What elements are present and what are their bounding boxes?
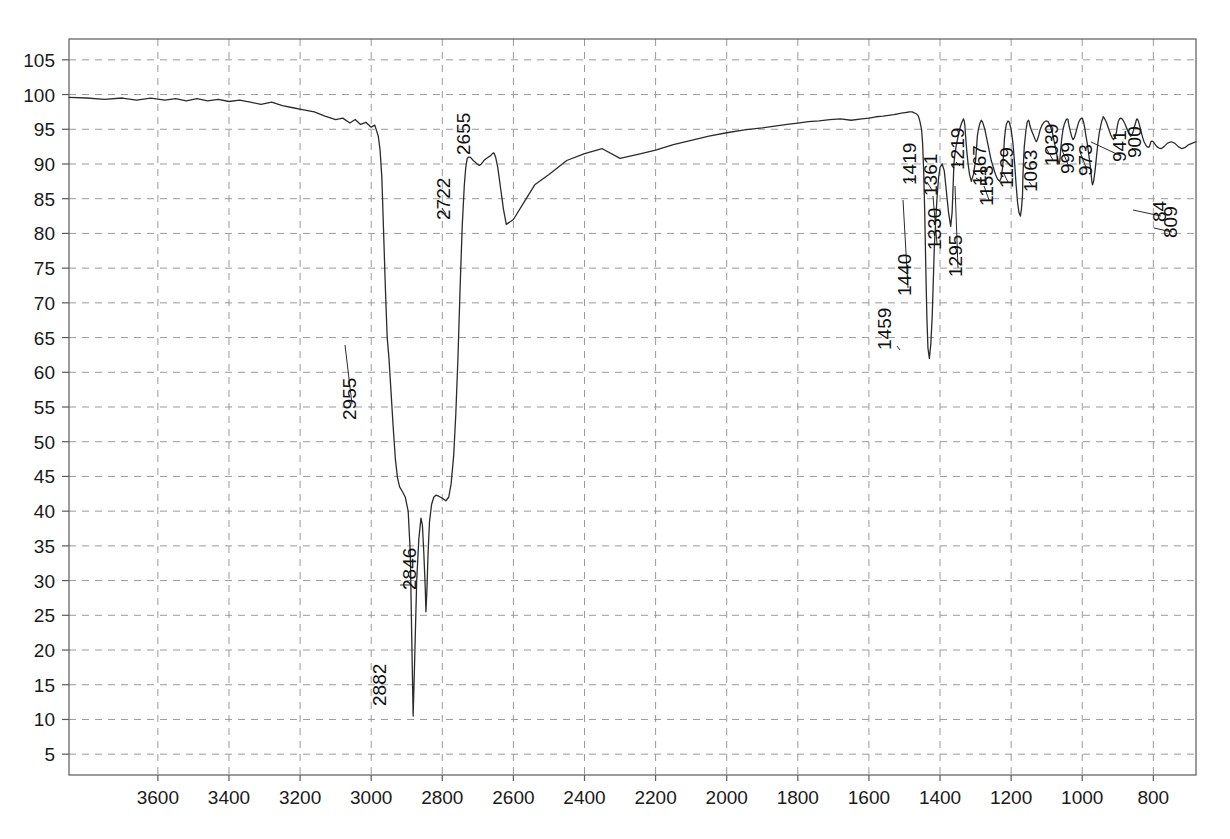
peak-label-1330: 1330 (924, 208, 945, 250)
x-tick-label: 1200 (990, 787, 1032, 808)
peak-label-973: 973 (1075, 144, 1096, 176)
y-tick-label: 100 (23, 85, 55, 106)
ir-spectrum-page: 3600340032003000280026002400220020001800… (0, 0, 1230, 839)
y-tick-label: 25 (34, 605, 55, 626)
peak-label-2955: 2955 (339, 378, 360, 420)
y-tick-label: 95 (34, 119, 55, 140)
y-tick-label: 50 (34, 432, 55, 453)
y-tick-label: 35 (34, 536, 55, 557)
y-tick-label: 60 (34, 362, 55, 383)
peak-label-2655: 2655 (453, 113, 474, 155)
y-tick-label: 10 (34, 709, 55, 730)
peak-label-1419: 1419 (899, 143, 920, 185)
x-axis-tick-labels: 3600340032003000280026002400220020001800… (137, 787, 1169, 808)
y-tick-label: 75 (34, 258, 55, 279)
y-tick-label: 40 (34, 501, 55, 522)
y-tick-label: 20 (34, 640, 55, 661)
peak-label-2722: 2722 (433, 178, 454, 220)
x-tick-label: 800 (1137, 787, 1169, 808)
peak-label-1361: 1361 (920, 154, 941, 196)
x-tick-label: 1800 (777, 787, 819, 808)
y-axis-tick-labels: 5101520253035404550556065707580859095100… (23, 50, 55, 765)
y-tick-label: 105 (23, 50, 55, 71)
y-tick-label: 70 (34, 293, 55, 314)
y-tick-label: 15 (34, 675, 55, 696)
peak-label-2846: 2846 (399, 548, 420, 590)
y-tick-label: 65 (34, 328, 55, 349)
y-tick-label: 30 (34, 571, 55, 592)
peak-label-1129: 1129 (996, 147, 1017, 188)
y-tick-label: 90 (34, 154, 55, 175)
peak-leader-line (897, 346, 900, 350)
x-tick-label: 2000 (706, 787, 748, 808)
spectrum-chart: 3600340032003000280026002400220020001800… (0, 0, 1230, 839)
x-tick-label: 2800 (421, 787, 463, 808)
peak-label-1153: 1153 (976, 165, 997, 206)
x-tick-label: 3400 (208, 787, 250, 808)
x-tick-label: 2200 (634, 787, 676, 808)
peak-labels: 2955288228462722265514591440141913611330… (339, 113, 1181, 706)
y-tick-label: 45 (34, 466, 55, 487)
y-tick-label: 80 (34, 223, 55, 244)
peak-label-1440: 1440 (894, 254, 915, 296)
peak-label-1295: 1295 (945, 235, 966, 277)
x-tick-label: 1600 (848, 787, 890, 808)
peak-label-1063: 1063 (1020, 150, 1041, 192)
x-tick-label: 1000 (1061, 787, 1103, 808)
peak-label-2882: 2882 (369, 664, 390, 706)
x-tick-label: 3200 (279, 787, 321, 808)
x-tick-label: 2600 (492, 787, 534, 808)
x-tick-label: 1400 (919, 787, 961, 808)
y-tick-label: 5 (44, 744, 55, 765)
y-tick-label: 85 (34, 189, 55, 210)
x-tick-label: 3000 (350, 787, 392, 808)
peak-label-1459: 1459 (874, 308, 895, 350)
peak-label-1219: 1219 (947, 128, 968, 170)
peak-label-900: 900 (1124, 126, 1145, 158)
y-tick-label: 55 (34, 397, 55, 418)
grid-lines (69, 39, 1196, 775)
x-tick-label: 2400 (563, 787, 605, 808)
x-tick-label: 3600 (137, 787, 179, 808)
peak-leader-lines (345, 142, 1172, 702)
peak-label-809: 809 (1160, 206, 1181, 238)
